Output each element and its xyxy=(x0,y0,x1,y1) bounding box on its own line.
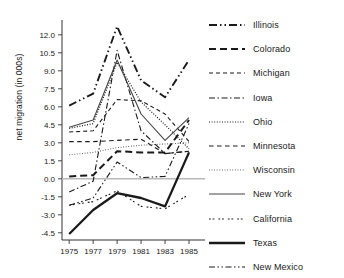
x-tick-label: 1979 xyxy=(108,247,126,256)
y-tick-label: 0.0 xyxy=(44,175,56,184)
legend-swatch-line xyxy=(208,117,246,127)
series-line-new-york xyxy=(69,60,189,140)
legend-item-new-mexico[interactable]: New Mexico xyxy=(208,255,344,278)
y-tick-label: 12.0 xyxy=(39,31,55,40)
legend-swatch-line xyxy=(208,238,246,248)
series-line-colorado xyxy=(69,120,189,176)
y-tick-label: -4.5 xyxy=(41,229,55,238)
legend-swatch-line xyxy=(208,214,246,224)
y-tick-label: 10.5 xyxy=(39,49,55,58)
legend-swatch-line xyxy=(208,262,246,272)
legend-label: Texas xyxy=(253,238,277,248)
y-tick-label: -3.0 xyxy=(41,211,55,220)
y-tick-label: 4.5 xyxy=(44,121,56,130)
legend-label: Wisconsin xyxy=(253,165,295,175)
y-tick-label: 7.5 xyxy=(44,85,56,94)
legend-item-minnesota[interactable]: Minnesota xyxy=(208,134,344,158)
legend-swatch-line xyxy=(208,68,246,78)
legend-label: New York xyxy=(253,189,292,199)
legend-item-new-york[interactable]: New York xyxy=(208,182,344,206)
legend-item-california[interactable]: California xyxy=(208,207,344,231)
x-axis-ticks: 197519771979198119831985 xyxy=(60,240,198,256)
legend-item-iowa[interactable]: Iowa xyxy=(208,86,344,110)
data-series-lines xyxy=(69,26,189,234)
legend-label: Michigan xyxy=(253,68,290,78)
y-tick-label: 1.5 xyxy=(44,157,56,166)
legend: IllinoisColoradoMichiganIowaOhioMinnesot… xyxy=(208,13,344,278)
x-tick-label: 1975 xyxy=(60,247,78,256)
y-tick-label: 6.0 xyxy=(44,103,56,112)
axis-spines xyxy=(62,20,205,240)
legend-item-ohio[interactable]: Ohio xyxy=(208,110,344,134)
series-line-iowa xyxy=(69,50,189,192)
legend-item-illinois[interactable]: Illinois xyxy=(208,13,344,37)
legend-swatch-line xyxy=(208,189,246,199)
legend-label: Illinois xyxy=(253,20,279,30)
legend-swatch-line xyxy=(208,44,246,54)
legend-item-michigan[interactable]: Michigan xyxy=(208,61,344,85)
series-line-illinois xyxy=(69,26,189,105)
legend-swatch-line xyxy=(208,93,246,103)
legend-item-texas[interactable]: Texas xyxy=(208,231,344,255)
legend-swatch-line xyxy=(208,141,246,151)
series-line-ohio xyxy=(69,62,189,148)
legend-label: Ohio xyxy=(253,117,272,127)
x-tick-label: 1977 xyxy=(84,247,102,256)
y-tick-label: 9.0 xyxy=(44,67,56,76)
x-tick-label: 1985 xyxy=(180,247,198,256)
legend-label: Minnesota xyxy=(253,141,295,151)
legend-item-wisconsin[interactable]: Wisconsin xyxy=(208,158,344,182)
y-tick-label: -1.5 xyxy=(41,193,55,202)
legend-item-colorado[interactable]: Colorado xyxy=(208,37,344,61)
legend-swatch-line xyxy=(208,20,246,30)
legend-label: Colorado xyxy=(253,44,290,54)
legend-label: Iowa xyxy=(253,93,272,103)
series-line-texas xyxy=(69,152,189,234)
legend-swatch-line xyxy=(208,165,246,175)
x-tick-label: 1981 xyxy=(132,247,150,256)
net-migration-line-chart: net migration (in 000s) 12.010.59.07.56.… xyxy=(0,0,344,278)
y-tick-label: 3.0 xyxy=(44,139,56,148)
legend-label: California xyxy=(253,214,292,224)
x-tick-label: 1983 xyxy=(156,247,174,256)
legend-label: New Mexico xyxy=(253,262,303,272)
y-axis-ticks: 12.010.59.07.56.04.53.01.50.0-1.5-3.0-4.… xyxy=(39,31,62,238)
